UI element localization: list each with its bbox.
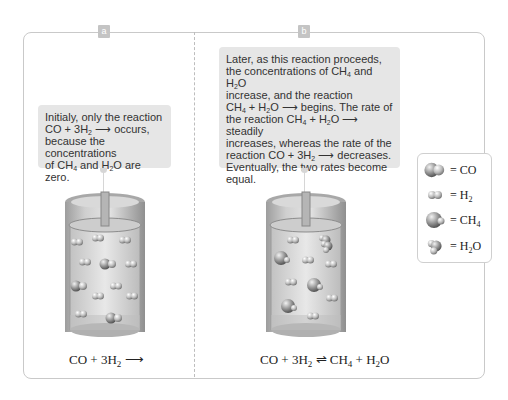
callout-line: increase, and the reaction bbox=[226, 89, 393, 101]
callout-text: O ⟶ begins. The rate of bbox=[270, 101, 392, 113]
callout-text: of CH bbox=[45, 159, 73, 171]
callout-line: the reaction CH4 + H2O ⟶ steadily bbox=[226, 113, 393, 137]
panel-a-tag: a bbox=[98, 25, 110, 38]
legend-label: = CH4 bbox=[450, 213, 480, 228]
callout-text: ⟶ occurs, bbox=[92, 123, 150, 135]
legend-label: = CO bbox=[450, 163, 476, 178]
legend-label: = H2 bbox=[450, 188, 472, 203]
callout-text: O bbox=[238, 77, 247, 89]
legend-item-h2o: = H2O bbox=[424, 236, 481, 256]
callout-text: Later, as this reaction proceeds, bbox=[226, 53, 382, 65]
equation-text: O bbox=[380, 352, 389, 367]
callout-line: equal. bbox=[226, 173, 393, 185]
panel-b-callout: Later, as this reaction proceeds, the co… bbox=[219, 47, 400, 168]
callout-text: the reaction CH bbox=[226, 113, 302, 125]
legend-item-ch4: = CH4 bbox=[424, 210, 480, 230]
legend-item-co: = CO bbox=[424, 160, 476, 180]
callout-text: + H bbox=[246, 101, 266, 113]
callout-stem bbox=[304, 172, 305, 192]
callout-text: + H bbox=[306, 113, 326, 125]
callout-line: CH4 + H2O ⟶ begins. The rate of bbox=[226, 101, 393, 113]
legend-item-h2: = H2 bbox=[424, 185, 472, 205]
equation-text: + H bbox=[352, 352, 375, 367]
callout-text: CH bbox=[226, 101, 242, 113]
panel-b-tag: b bbox=[298, 25, 310, 38]
callout-text: ⟶ decreases. bbox=[315, 149, 391, 161]
equation-text: CO + 3H bbox=[260, 352, 308, 367]
callout-line: the concentrations of CH4 and H2O bbox=[226, 65, 393, 89]
callout-text: because the concentrations bbox=[45, 135, 117, 159]
callout-line: increases, whereas the rate of the bbox=[226, 137, 393, 149]
callout-line: Later, as this reaction proceeds, bbox=[226, 53, 393, 65]
callout-text: Initialy, only the reaction bbox=[45, 111, 162, 123]
callout-text: equal. bbox=[226, 173, 256, 185]
panel-a-callout: Initialy, only the reaction CO + 3H2 ⟶ o… bbox=[38, 105, 171, 168]
callout-text: increase, and the reaction bbox=[226, 89, 353, 101]
callout-text: the concentrations of CH bbox=[226, 65, 347, 77]
callout-text: CO + 3H bbox=[45, 123, 88, 135]
reaction-cylinder-a bbox=[60, 190, 150, 350]
callout-line: Eventually, the two rates become bbox=[226, 161, 393, 173]
equation-text: ⇌ CH bbox=[312, 352, 348, 367]
reaction-cylinder-b bbox=[261, 190, 351, 350]
equation-a: CO + 3H2 ⟶ bbox=[69, 352, 144, 368]
h2-molecule-icon bbox=[424, 186, 446, 204]
ch4-molecule-icon bbox=[424, 210, 446, 230]
panel-divider bbox=[194, 32, 195, 377]
equation-text: ⟶ bbox=[121, 352, 143, 367]
equation-b: CO + 3H2 ⇌ CH4 + H2O bbox=[260, 352, 389, 368]
equation-text: CO + 3H bbox=[69, 352, 117, 367]
molecule-legend: = CO = H2 = CH4 = H2O bbox=[417, 153, 492, 263]
callout-text: increases, whereas the rate of the bbox=[226, 137, 392, 149]
co-molecule-icon bbox=[424, 161, 446, 179]
callout-stem bbox=[103, 172, 104, 192]
h2o-molecule-icon bbox=[424, 237, 446, 255]
callout-line: reaction CO + 3H2 ⟶ decreases. bbox=[226, 149, 393, 161]
callout-text: reaction CO + 3H bbox=[226, 149, 311, 161]
legend-label: = H2O bbox=[450, 239, 481, 254]
